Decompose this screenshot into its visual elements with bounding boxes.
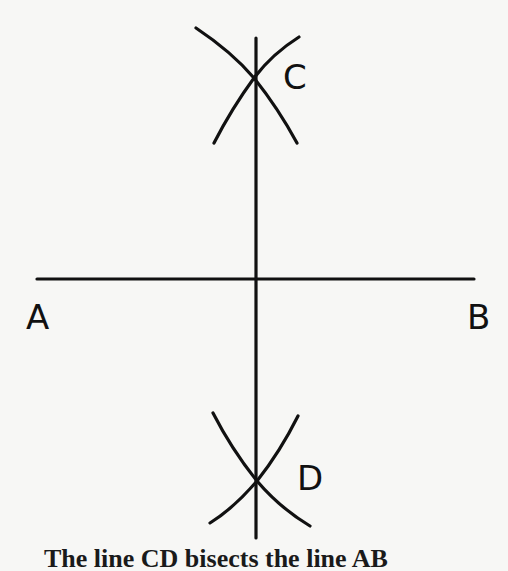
point-label-d: D bbox=[297, 461, 323, 495]
arc-c-from-a bbox=[196, 28, 297, 143]
point-label-c: C bbox=[283, 60, 307, 94]
point-label-a: A bbox=[26, 300, 49, 334]
figure-caption: The line CD bisects the line AB bbox=[44, 546, 388, 571]
point-label-b: B bbox=[467, 300, 490, 334]
